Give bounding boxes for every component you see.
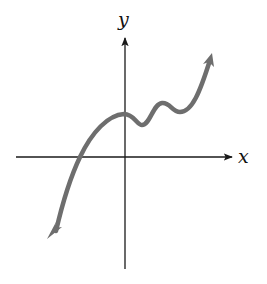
x-axis-label: x <box>238 145 249 167</box>
graph-figure: x y <box>0 0 267 284</box>
y-axis-label: y <box>117 8 129 30</box>
y-axis: y <box>117 8 129 269</box>
graph-svg: x y <box>0 0 267 284</box>
x-axis: x <box>16 145 249 167</box>
function-curve <box>56 60 210 231</box>
